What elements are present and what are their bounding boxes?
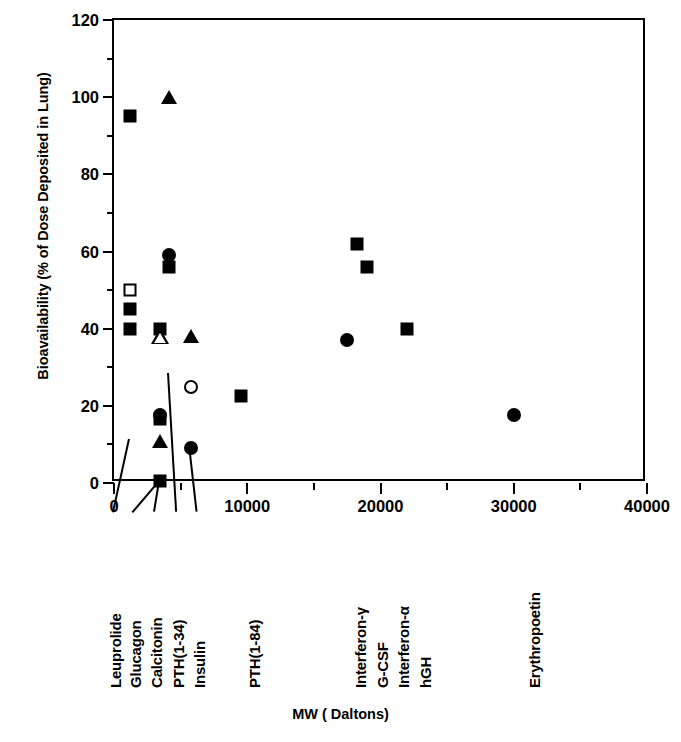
data-point-circle-filled [507, 408, 521, 422]
y-tick-minor [107, 289, 114, 291]
data-point-circle-filled [184, 441, 198, 455]
y-tick-label: 40 [81, 319, 99, 338]
x-tick-label: 40000 [624, 497, 670, 516]
y-tick-label: 20 [81, 396, 99, 415]
data-point-triangle-filled [161, 90, 177, 104]
category-label: Interferon-α [395, 606, 412, 688]
y-tick-major [103, 173, 114, 175]
data-point-square-filled [124, 322, 137, 335]
data-point-square-open [124, 284, 137, 297]
category-label: PTH(1-84) [246, 620, 263, 688]
y-tick-minor [107, 135, 114, 137]
x-tick-label: 20000 [358, 497, 404, 516]
y-tick-minor [107, 212, 114, 214]
y-tick-label: 0 [90, 474, 99, 493]
y-tick-minor [107, 58, 114, 60]
x-tick-major [646, 483, 648, 494]
data-point-square-filled [350, 237, 363, 250]
data-point-triangle-filled [183, 329, 199, 343]
x-tick-major [513, 483, 515, 494]
y-tick-label: 60 [81, 242, 99, 261]
category-label: Insulin [191, 641, 208, 688]
y-tick-major [103, 251, 114, 253]
x-tick-minor [180, 483, 182, 490]
category-label: Leuprolide [107, 613, 124, 688]
data-point-triangle-open [151, 328, 169, 344]
y-tick-major [103, 96, 114, 98]
category-label: Interferon-γ [352, 607, 369, 688]
category-label: Erythropoetin [526, 592, 543, 688]
y-tick-minor [107, 443, 114, 445]
x-tick-minor [446, 483, 448, 490]
y-tick-major [103, 19, 114, 21]
category-label: hGH [417, 657, 434, 688]
chart-page: Bioavailability (% of Dose Deposited in … [0, 0, 681, 742]
category-label: Calcitonin [148, 617, 165, 688]
x-tick-label: 10000 [224, 497, 270, 516]
data-point-square-filled [361, 260, 374, 273]
y-tick-major [103, 328, 114, 330]
category-label: Glucagon [127, 620, 144, 688]
data-point-square-filled [124, 303, 137, 316]
data-point-square-filled [234, 390, 247, 403]
plot-area: 020406080100120 010000200003000040000 [112, 18, 645, 481]
x-tick-major [246, 483, 248, 494]
x-tick-label: 30000 [491, 497, 537, 516]
data-point-square-filled [401, 322, 414, 335]
x-tick-major [380, 483, 382, 494]
y-tick-label: 80 [81, 165, 99, 184]
y-tick-major [103, 405, 114, 407]
y-axis-title: Bioavailability (% of Dose Deposited in … [35, 46, 51, 406]
data-point-square-filled [154, 413, 167, 426]
y-tick-minor [107, 366, 114, 368]
data-point-triangle-filled [152, 434, 168, 448]
x-tick-minor [313, 483, 315, 490]
data-point-circle-filled [340, 333, 354, 347]
category-label: G-CSF [374, 642, 391, 688]
x-tick-major [113, 483, 115, 494]
data-point-square-filled [162, 260, 175, 273]
y-tick-label: 100 [71, 88, 99, 107]
data-point-square-filled [124, 110, 137, 123]
y-tick-label: 120 [71, 11, 99, 30]
data-point-circle-open [184, 380, 198, 394]
x-axis-title: MW ( Daltons) [0, 706, 681, 722]
category-label: PTH(1-34) [170, 620, 187, 688]
x-tick-minor [579, 483, 581, 490]
